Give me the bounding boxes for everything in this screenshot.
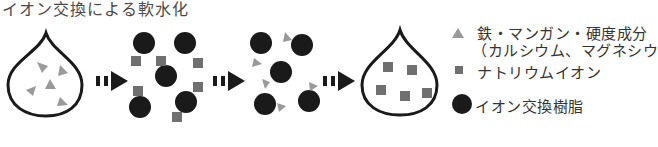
hardness-ion-icon [26, 86, 36, 96]
hardness-ion-icon [283, 32, 292, 42]
hardness-ion-icon [58, 65, 68, 76]
sodium-ion-icon [407, 65, 417, 75]
resin-bead-icon [254, 93, 276, 115]
arrow-icon [323, 71, 355, 91]
legend-triangle-icon [452, 28, 464, 38]
hardness-ion-icon [252, 58, 262, 67]
sodium-ion-icon [131, 56, 141, 66]
hardness-ion-icon [277, 103, 286, 112]
resin-bead-icon [129, 96, 151, 118]
resin-bead-icon [298, 90, 320, 112]
sodium-ion-icon [376, 85, 386, 95]
sodium-ion-icon [193, 58, 203, 68]
water-drop-outline [8, 33, 82, 116]
resin-bead-icon [133, 32, 155, 54]
sodium-ion-icon [383, 62, 393, 72]
arrow-icon [96, 71, 128, 91]
resin-bead-icon [155, 65, 177, 87]
sodium-ion-icon [156, 56, 166, 66]
sodium-ion-icon [400, 91, 410, 101]
resin-bead-icon [174, 32, 196, 54]
hard-water-drop [8, 33, 82, 116]
sodium-ion-icon [193, 82, 203, 92]
legend-resin-label: イオン交換樹脂 [475, 95, 584, 116]
hardness-ion-icon [309, 82, 318, 91]
legend-square-icon [455, 66, 463, 74]
resin-bead-icon [250, 32, 272, 54]
sodium-ion-icon [422, 88, 432, 98]
legend-circle-icon [452, 94, 472, 114]
resin-bead-icon [270, 61, 292, 83]
resin-bead-icon [175, 91, 197, 113]
arrow-icon [213, 71, 245, 91]
hardness-ion-icon [57, 97, 68, 106]
hardness-ion-icon [37, 62, 48, 73]
water-drop-outline [362, 30, 437, 115]
soft-water-drop [362, 30, 437, 115]
legend-hardness-line2: （カルシウム、マグネシウ [472, 39, 658, 60]
sodium-ion-icon [172, 112, 182, 122]
resin-with-sodium [129, 32, 203, 122]
hardness-ion-icon [45, 79, 56, 89]
resin-bead-icon [291, 34, 313, 56]
resin-with-hardness [250, 32, 320, 115]
legend-sodium-label: ナトリウムイオン [477, 61, 601, 82]
sodium-ion-icon [133, 86, 143, 96]
hardness-ion-icon [262, 79, 270, 89]
